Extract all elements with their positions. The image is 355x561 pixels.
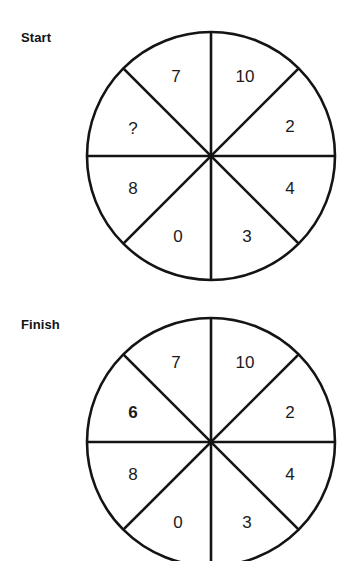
finish-sector-value: 4 xyxy=(285,465,294,484)
finish-sector-value: 7 xyxy=(171,353,180,372)
finish-sector-value: 0 xyxy=(173,513,182,532)
finish-sector-value: 3 xyxy=(242,513,251,532)
finish-wheel: 7 10 2 4 3 0 8 6 xyxy=(0,0,355,561)
finish-sector-value: 10 xyxy=(236,353,255,372)
finish-sector-value: 2 xyxy=(285,403,294,422)
finish-sector-value: 8 xyxy=(128,465,137,484)
diagram-canvas: Start 7 10 2 4 3 0 8 ? Finish 7 10 2 4 3… xyxy=(0,0,355,561)
finish-sector-answer-value: 6 xyxy=(128,403,137,422)
